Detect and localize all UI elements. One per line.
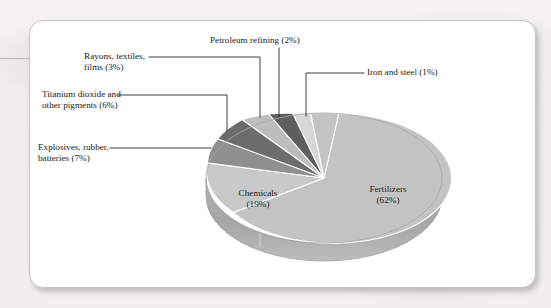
slice-label-fertilizers-line2: (62%) [348,195,428,206]
slice-label-fertilizers: Fertilizers (62%) [348,184,428,207]
slice-label-fertilizers-line1: Fertilizers [348,184,428,195]
leader-line-titanium-dioxide [118,95,227,131]
pie-chart: Petroleum refining (2%) Iron and steel (… [30,21,535,287]
callout-rayons: Rayons, textiles, films (3%) [84,51,145,74]
slice-label-chemicals-line1: Chemicals [216,188,300,199]
callout-iron-and-steel-line1: Iron and steel (1%) [367,67,438,78]
slice-label-chemicals: Chemicals (19%) [216,188,300,211]
slice-label-chemicals-line2: (19%) [216,199,300,210]
callout-petroleum-refining-line1: Petroleum refining (2%) [210,35,300,46]
pie-slices [206,113,452,244]
callout-titanium-dioxide: Titanium dioxide and other pigments (6%) [42,89,121,112]
callout-petroleum-refining: Petroleum refining (2%) [210,35,300,46]
callout-titanium-dioxide-line1: Titanium dioxide and [42,89,121,100]
callout-explosives: Explosives, rubber, batteries (7%) [38,142,109,165]
callout-rayons-line1: Rayons, textiles, [84,51,145,62]
figure-card: Petroleum refining (2%) Iron and steel (… [29,20,536,288]
callout-rayons-line2: films (3%) [84,62,145,73]
callout-iron-and-steel: Iron and steel (1%) [367,67,438,78]
leader-line-iron-and-steel [306,73,364,116]
callout-titanium-dioxide-line2: other pigments (6%) [42,100,121,111]
leader-line-rayons [149,57,260,117]
callout-explosives-line1: Explosives, rubber, [38,142,109,153]
callout-explosives-line2: batteries (7%) [38,153,109,164]
